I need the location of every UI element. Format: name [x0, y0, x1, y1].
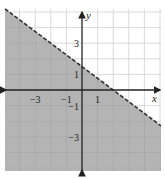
x-tick-label: 1 [95, 94, 100, 105]
x-axis-label: x [151, 92, 157, 104]
y-axis-label: y [85, 9, 91, 21]
y-tick-label: 1 [74, 69, 79, 80]
y-tick-label: −3 [68, 132, 79, 143]
x-tick-label: −3 [30, 94, 41, 105]
y-tick-label: −1 [68, 101, 79, 112]
inequality-graph: xy−3−1131−1−3 [0, 0, 165, 179]
y-tick-label: 3 [74, 38, 79, 49]
